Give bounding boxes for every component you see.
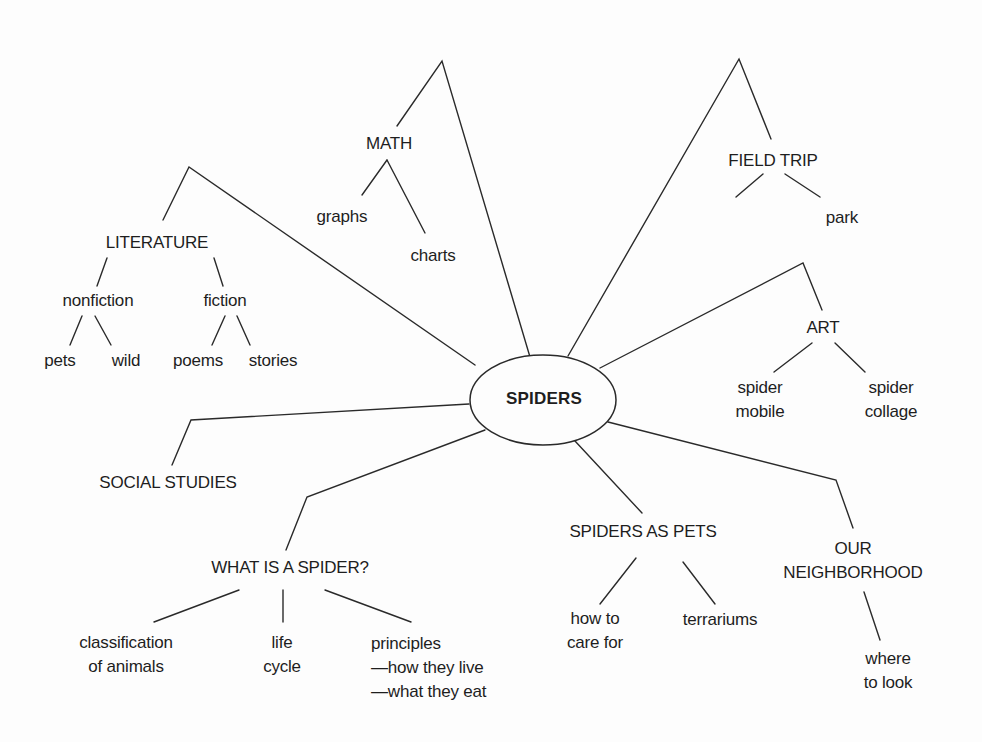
node-math: MATH [366,132,412,156]
connector-math-charts [387,160,425,233]
node-how-to-line2: care for [567,631,623,655]
node-principles-line2: —how they live [371,656,486,680]
node-wild: wild [112,349,141,373]
node-spider-mobile-line1: spider [736,376,785,400]
node-park: park [826,206,858,230]
node-terrariums: terrariums [683,608,758,632]
node-where-to-look-line1: where [864,647,913,671]
node-how-to-care-for: how to care for [567,607,623,655]
node-spider-collage: spider collage [865,376,917,424]
connector-math-graphs [362,160,387,195]
node-charts: charts [410,244,455,268]
connector-art-mobile [774,343,812,372]
node-spiders-as-pets: SPIDERS AS PETS [569,520,716,544]
node-classification-line2: of animals [79,655,173,679]
node-stories: stories [249,349,298,373]
node-social-studies: SOCIAL STUDIES [99,471,236,495]
connector-neighborhood-where [864,592,880,640]
connector-what-classification [154,590,239,622]
node-spider-mobile-line2: mobile [736,400,785,424]
node-graphs: graphs [317,205,368,229]
connector-our-neighborhood [608,422,853,528]
node-life-cycle-line1: life [263,631,301,655]
connector-what-principles [325,590,411,622]
node-life-cycle-line2: cycle [263,655,301,679]
node-pets: pets [44,349,75,373]
concept-map: SPIDERS MATH graphs charts FIELD TRIP pa… [0,0,982,742]
connector-art-collage [835,343,865,372]
node-our-neighborhood: OUR NEIGHBORHOOD [783,537,922,585]
node-principles-line1: principles [371,632,486,656]
node-literature: LITERATURE [106,231,209,255]
connector-math [397,61,530,357]
node-poems: poems [173,349,223,373]
node-spider-collage-line2: collage [865,400,917,424]
node-how-to-line1: how to [567,607,623,631]
connector-art [600,263,822,368]
node-classification-line1: classification [79,631,173,655]
connector-pets-terrariums [683,562,715,604]
connector-field-trip [568,59,771,356]
connector-pets-howto [600,558,636,604]
node-life-cycle: life cycle [263,631,301,679]
connector-fieldtrip-park [785,174,820,197]
node-our-neighborhood-line2: NEIGHBORHOOD [783,561,922,585]
node-spider-collage-line1: spider [865,376,917,400]
node-principles-line3: —what they eat [371,680,486,704]
node-spider-mobile: spider mobile [736,376,785,424]
node-art: ART [806,316,839,340]
connector-what-is-a-spider [286,430,485,550]
node-field-trip: FIELD TRIP [728,149,817,173]
node-our-neighborhood-line1: OUR [783,537,922,561]
connector-fieldtrip-petshop [736,174,763,197]
center-node-label: SPIDERS [506,387,582,411]
node-classification-of-animals: classification of animals [79,631,173,679]
node-fiction: fiction [203,289,246,313]
connector-nonfiction-wild [95,316,111,345]
connector-fiction-stories [237,316,250,345]
connector-fiction-poems [212,316,225,345]
connector-lit-nonfiction [97,258,107,286]
connector-social-studies [172,404,469,465]
connector-spiders-as-pets [575,441,642,513]
node-nonfiction: nonfiction [63,289,134,313]
node-where-to-look-line2: to look [864,671,913,695]
node-principles: principles —how they live —what they eat [371,632,486,704]
connector-lit-fiction [214,258,223,286]
node-where-to-look: where to look [864,647,913,695]
node-what-is-a-spider: WHAT IS A SPIDER? [211,556,369,580]
connector-nonfiction-pets [70,316,82,345]
